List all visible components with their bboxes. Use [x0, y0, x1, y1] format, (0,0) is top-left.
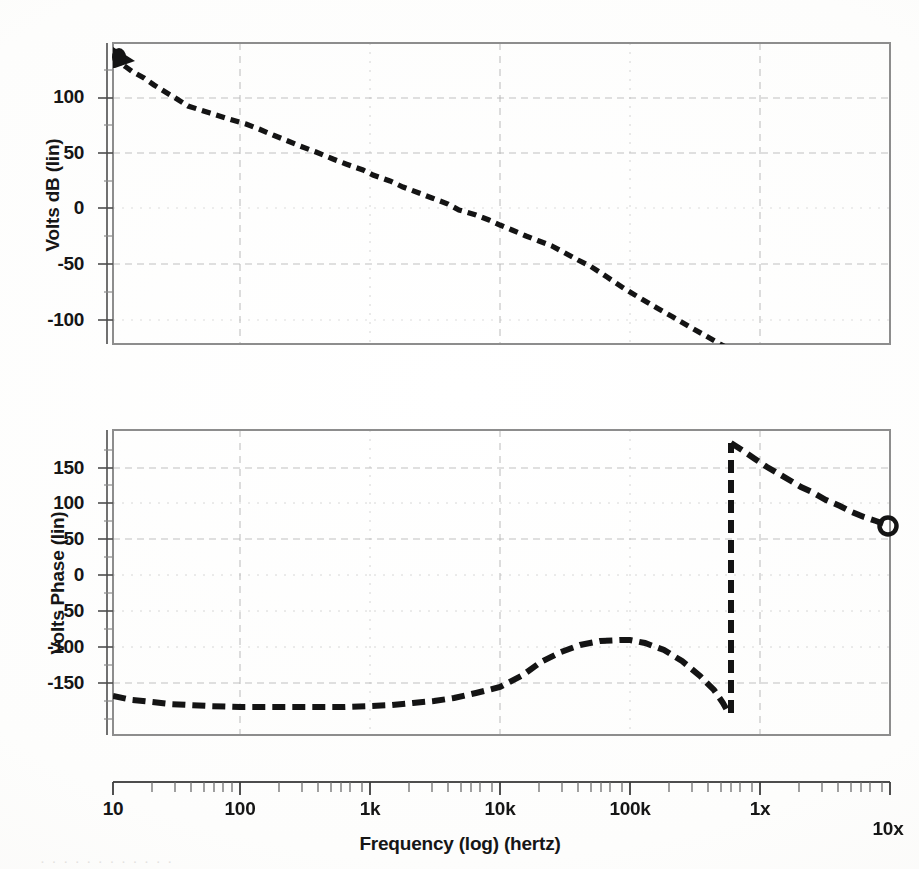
phase-ytick-neg150: -150	[10, 672, 84, 694]
magnitude-ytick-0: 0	[10, 197, 84, 219]
xtick-10: 10	[78, 798, 148, 820]
phase-ytick-100: 100	[10, 492, 84, 514]
magnitude-ytick-neg50: -50	[10, 253, 84, 275]
phase-ytick-0: 0	[10, 564, 84, 586]
magnitude-ytick-50: 50	[10, 142, 84, 164]
page-bleed-through-text: · · · · · · · · · · · ·	[40, 852, 880, 869]
phase-y-minor-ticks	[104, 450, 113, 719]
xtick-100k: 100k	[595, 798, 665, 820]
magnitude-gridlines-vertical	[240, 43, 760, 344]
magnitude-curve	[113, 56, 735, 352]
xtick-100: 100	[205, 798, 275, 820]
magnitude-gridlines-horizontal	[113, 98, 890, 320]
phase-curve-branch-2	[731, 443, 887, 525]
phase-ytick-50: 50	[10, 528, 84, 550]
phase-panel	[98, 430, 897, 735]
phase-gridlines-horizontal	[113, 468, 890, 683]
magnitude-y-axis	[98, 43, 113, 344]
magnitude-start-marker-core	[112, 48, 126, 66]
magnitude-plot-frame	[113, 43, 890, 344]
magnitude-ytick-neg100: -100	[10, 309, 84, 331]
xtick-1k: 1k	[335, 798, 405, 820]
x-axis-ruler	[113, 782, 890, 795]
xtick-10k: 10k	[465, 798, 535, 820]
phase-y-axis	[98, 430, 113, 735]
magnitude-panel	[98, 43, 890, 352]
phase-ytick-150: 150	[10, 457, 84, 479]
phase-ytick-neg100: -100	[10, 636, 84, 658]
phase-ytick-neg50: -50	[10, 600, 84, 622]
bode-plot-figure: Volts dB (lin) Volts Phase (lin) 100 50 …	[0, 0, 919, 869]
phase-curve-branch-1	[113, 640, 728, 712]
plot-canvas	[0, 0, 919, 869]
xtick-1x: 1x	[725, 798, 795, 820]
magnitude-y-minor-ticks	[104, 70, 113, 292]
xtick-10x: 10x	[853, 818, 919, 840]
magnitude-ytick-100: 100	[10, 86, 84, 108]
